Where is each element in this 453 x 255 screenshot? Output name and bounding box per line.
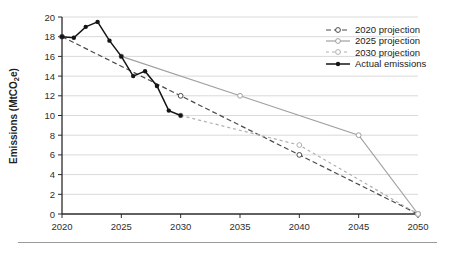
svg-text:16: 16 [44,51,55,62]
svg-text:2025: 2025 [111,221,132,232]
svg-text:4: 4 [50,169,55,180]
legend-label-2020-projection: 2020 projection [355,25,420,35]
emissions-projection-chart: 0246810121416182020202025203020352040204… [0,0,453,255]
svg-text:2: 2 [50,189,55,200]
svg-text:14: 14 [44,71,55,82]
legend-item-2020-projection: 2020 projection [326,24,426,35]
chart-legend: 2020 projection 2025 projection 2030 pro… [326,24,426,70]
legend-item-2025-projection: 2025 projection [326,35,426,46]
svg-text:2050: 2050 [407,221,428,232]
svg-text:2020: 2020 [51,221,72,232]
svg-text:18: 18 [44,31,55,42]
svg-text:2040: 2040 [289,221,310,232]
svg-text:2045: 2045 [348,221,369,232]
legend-label-actual-emissions: Actual emissions [355,59,426,69]
svg-text:12: 12 [44,90,55,101]
divider-rule [18,242,437,243]
legend-item-2030-projection: 2030 projection [326,47,426,58]
legend-line-sample-actual-emissions [326,59,350,69]
svg-text:8: 8 [50,130,55,141]
svg-text:Emissions (MtCO2e): Emissions (MtCO2e) [8,68,21,164]
svg-text:6: 6 [50,149,55,160]
legend-item-actual-emissions: Actual emissions [326,58,426,69]
legend-line-sample-2030-projection [326,47,350,57]
svg-text:20: 20 [44,12,55,23]
legend-label-2025-projection: 2025 projection [355,36,420,46]
svg-text:10: 10 [44,110,55,121]
svg-text:0: 0 [50,209,55,220]
legend-line-sample-2025-projection [326,36,350,46]
legend-label-2030-projection: 2030 projection [355,48,420,58]
svg-text:2035: 2035 [229,221,250,232]
legend-line-sample-2020-projection [326,25,350,35]
svg-text:2030: 2030 [170,221,191,232]
